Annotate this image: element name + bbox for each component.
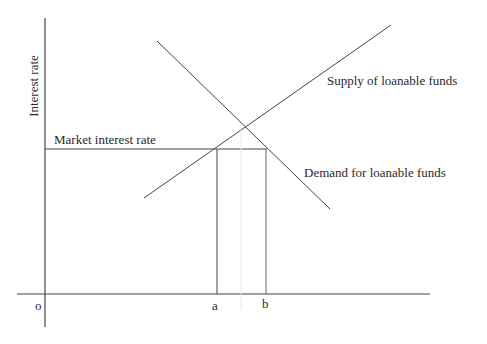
supply-label: Supply of loanable funds — [327, 73, 457, 89]
market-rate-label: Market interest rate — [54, 132, 156, 148]
y-axis-label: Interest rate — [26, 55, 42, 117]
tick-a-label: a — [212, 298, 218, 314]
origin-label: o — [35, 298, 42, 314]
demand-label: Demand for loanable funds — [304, 165, 446, 181]
demand-curve — [157, 41, 330, 209]
tick-b-label: b — [262, 296, 269, 312]
